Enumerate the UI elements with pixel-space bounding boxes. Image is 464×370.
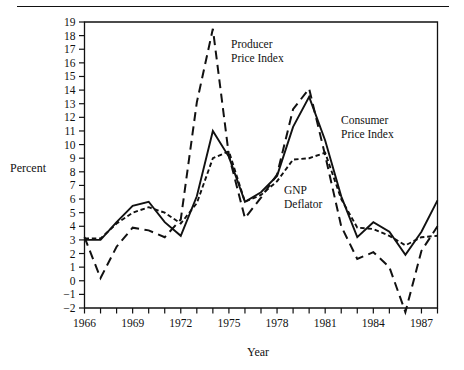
y-tick-label: 18	[64, 30, 76, 42]
y-tick-label: 1	[70, 261, 76, 273]
consumer-price-index-label: ConsumerPrice Index	[341, 114, 394, 140]
y-tick-label: −2	[63, 302, 75, 314]
axis-titles: PercentYear	[10, 161, 269, 359]
x-axis-title: Year	[247, 345, 269, 359]
series-annotations: ProducerPrice IndexConsumerPrice IndexGN…	[231, 38, 394, 210]
gnp-deflator-label: GNPDeflator	[284, 184, 322, 210]
x-tick-label: 1987	[410, 317, 433, 329]
y-tick-label: 12	[64, 111, 76, 123]
y-tick-label: 4	[70, 220, 76, 232]
series-line-producer-price-index	[85, 29, 438, 312]
y-tick-label: 10	[64, 139, 76, 151]
y-tick-label: 16	[64, 57, 76, 69]
x-tick-label: 1981	[314, 317, 337, 329]
x-tick-label: 1984	[362, 317, 385, 329]
y-tick-label: −1	[63, 288, 75, 300]
y-tick-label: 14	[64, 84, 76, 96]
y-tick-label: 15	[64, 70, 76, 82]
y-axis: 191817161514131211109876543210−1−2	[63, 16, 84, 314]
plot-frame	[85, 22, 438, 308]
y-tick-label: 19	[64, 16, 76, 28]
x-tick-label: 1966	[73, 317, 96, 329]
y-tick-label: 0	[70, 275, 76, 287]
series-group	[85, 29, 438, 312]
y-tick-label: 2	[70, 248, 76, 260]
x-tick-label: 1975	[217, 317, 240, 329]
y-tick-label: 11	[64, 125, 75, 137]
y-tick-label: 7	[70, 179, 76, 191]
y-tick-label: 13	[64, 98, 76, 110]
x-tick-label: 1969	[121, 317, 144, 329]
inflation-rates-figure: 191817161514131211109876543210−1−2196619…	[0, 0, 464, 370]
y-tick-label: 9	[70, 152, 76, 164]
y-tick-label: 6	[70, 193, 76, 205]
y-tick-label: 3	[70, 234, 76, 246]
y-tick-label: 17	[64, 43, 76, 55]
y-tick-label: 8	[70, 166, 76, 178]
x-tick-label: 1972	[169, 317, 192, 329]
x-tick-label: 1978	[266, 317, 289, 329]
y-tick-label: 5	[70, 207, 76, 219]
producer-price-index-label: ProducerPrice Index	[231, 38, 284, 64]
y-axis-title: Percent	[10, 161, 47, 175]
x-axis: 19661969197219751978198119841987	[73, 308, 438, 329]
inflation-line-chart: 191817161514131211109876543210−1−2196619…	[0, 0, 464, 370]
